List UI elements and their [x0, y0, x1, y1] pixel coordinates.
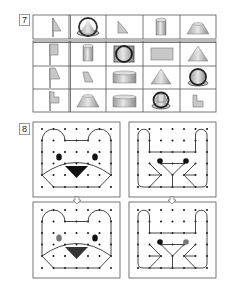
cone-in-circle-icon — [77, 18, 99, 36]
bear-original-features — [56, 154, 98, 179]
truncated-cone-icon — [187, 23, 209, 35]
flag-rectangle-icon — [50, 44, 58, 65]
bear-copy-figure — [42, 210, 111, 268]
sphere-in-circle-icon — [188, 69, 208, 86]
truncated-cone-icon — [77, 95, 99, 108]
trapezoid-icon — [83, 72, 93, 82]
cone-icon — [188, 46, 208, 61]
flag-l-shape-icon — [50, 91, 59, 111]
cone-icon — [151, 69, 171, 84]
rabbit-copy-figure — [138, 210, 207, 268]
cylinder-icon — [156, 18, 166, 35]
l-shape-icon — [193, 95, 203, 107]
flag-trapezoid-icon — [50, 68, 60, 88]
rectangle-icon — [151, 48, 173, 60]
bear-copy-features — [56, 235, 98, 260]
circle-on-cylinder-icon — [114, 46, 134, 62]
down-arrow-icon — [73, 197, 176, 204]
cylinder-in-sphere-icon — [152, 93, 170, 110]
exercise-canvas — [0, 0, 229, 298]
bear-original-dots — [41, 128, 112, 188]
bear-copy-dots — [41, 209, 112, 269]
bear-original-figure — [42, 129, 111, 187]
right-triangle-icon — [118, 21, 128, 33]
rabbit-original-figure — [138, 129, 207, 187]
flag-triangle-icon — [53, 18, 61, 37]
cylinder-icon — [83, 44, 93, 61]
dot-grid-panels — [33, 122, 216, 278]
flat-cylinder-icon — [113, 71, 136, 83]
flat-cylinder-icon — [113, 95, 136, 107]
